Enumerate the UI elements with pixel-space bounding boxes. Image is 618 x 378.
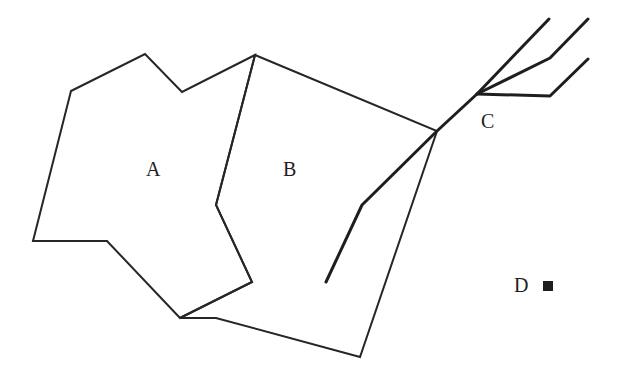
region-a-label: A xyxy=(146,158,161,180)
river-c-branch-upper xyxy=(477,19,588,94)
region-b-boundary xyxy=(180,55,437,357)
river-c-label: C xyxy=(481,110,494,132)
river-c-trunk xyxy=(326,19,549,282)
diagram-canvas: A B C D xyxy=(0,0,618,378)
point-d-label: D xyxy=(514,274,528,296)
region-b-label: B xyxy=(283,158,296,180)
point-d-marker-icon xyxy=(543,281,553,291)
